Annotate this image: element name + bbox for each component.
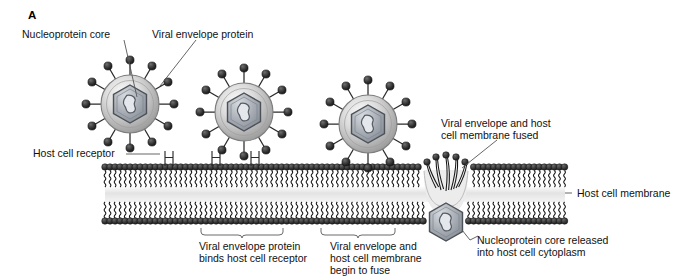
caption-braces <box>201 228 395 238</box>
label-host-cell-membrane: Host cell membrane <box>577 187 670 200</box>
panel-letter: A <box>28 9 36 21</box>
figure-panel: A Nucleoprotein core Viral envelope prot… <box>0 0 674 280</box>
label-released-line1: Nucleoprotein core released <box>477 234 608 247</box>
label-viral-envelope-protein: Viral envelope protein <box>152 28 253 41</box>
caption-fusing-line3: begin to fuse <box>330 264 390 277</box>
label-fused-line2: cell membrane fused <box>441 129 538 142</box>
host-cell-membrane <box>102 164 568 225</box>
label-host-cell-receptor: Host cell receptor <box>33 147 115 160</box>
caption-fusing-line2: host cell membrane <box>330 252 422 265</box>
caption-binds-line1: Viral envelope protein <box>199 240 300 253</box>
virion-receptor-bound <box>196 64 292 160</box>
virion-fusing <box>320 76 416 172</box>
virion-free <box>82 56 178 152</box>
label-nucleoprotein-core: Nucleoprotein core <box>22 28 110 41</box>
caption-fusing-line1: Viral envelope and <box>330 240 417 253</box>
label-released-line2: into host cell cytoplasm <box>477 246 586 259</box>
caption-binds-line2: binds host cell receptor <box>199 252 307 265</box>
label-fused-line1: Viral envelope and host <box>441 117 551 130</box>
